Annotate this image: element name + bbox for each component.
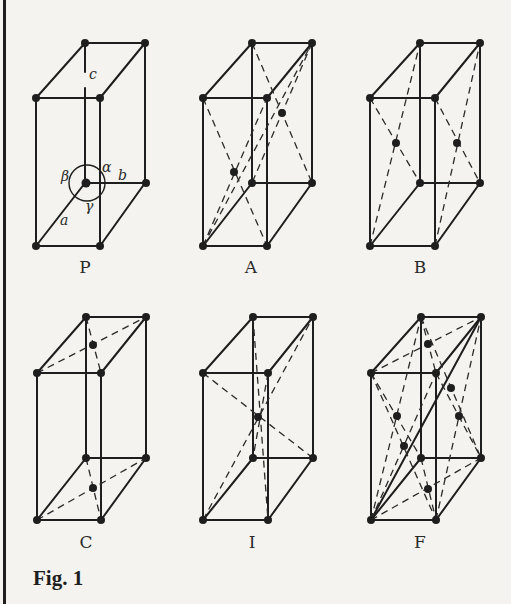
cell-F [367,313,485,524]
angle-gamma-label: γ [85,198,94,214]
cell-A [199,39,316,250]
edge-c-label: c [89,66,97,82]
label-C: C [79,532,92,552]
edge-b-label: b [118,167,127,183]
figure-caption: Fig. 1 [33,566,83,591]
angle-beta-label: β [60,168,69,184]
bravais-lattice-figure: .e { stroke: #1e1e1e; stroke-width: 2; f… [0,0,511,604]
angle-alpha-label: α [102,159,112,175]
edge-a-label: a [60,212,68,228]
cell-P: c b a α β γ [32,39,150,250]
label-F: F [414,532,426,552]
label-A: A [245,257,257,277]
cell-C [33,313,150,524]
label-I: I [249,532,256,552]
cell-B [366,39,484,250]
label-P: P [79,257,90,277]
cell-I [199,313,317,524]
label-B: B [414,257,427,277]
